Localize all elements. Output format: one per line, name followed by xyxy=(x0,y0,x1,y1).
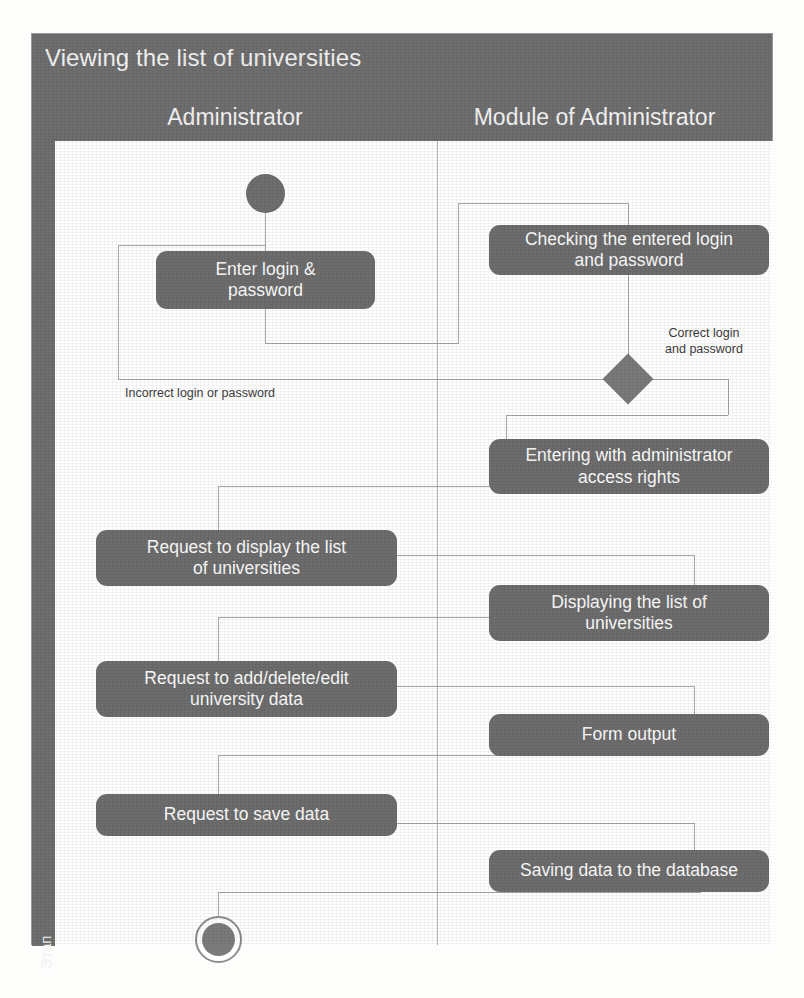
diagram-title-band: Viewing the list of universities Adminis… xyxy=(32,34,772,141)
swimlane-divider xyxy=(437,141,438,945)
connector-enter-login-down xyxy=(265,309,266,343)
swimlane-header-administrator: Administrator xyxy=(55,94,415,141)
connector-displaying-to-request-edit xyxy=(218,617,498,618)
connector-displaying-entry xyxy=(694,555,695,585)
connector-saving-db-entry xyxy=(694,823,695,850)
connector-start-to-enter-login xyxy=(265,213,266,251)
activity-form-output-label: Form output xyxy=(582,724,676,745)
swimlane-header-administrator-label: Administrator xyxy=(167,104,302,131)
connector-into-entering-rights xyxy=(506,415,507,439)
swimlane-header-module-of-administrator-label: Module of Administrator xyxy=(474,104,716,131)
connector-form-output-entry xyxy=(694,686,695,714)
activity-request-save-label: Request to save data xyxy=(164,804,329,825)
connector-incorrect-into-enter-login xyxy=(118,245,265,246)
activity-saving-db-label: Saving data to the database xyxy=(520,860,738,881)
swimlane-canvas: Enter login & password Checking the ente… xyxy=(55,141,773,945)
activity-checking-login-label: Checking the entered login and password xyxy=(525,229,733,272)
connector-enter-login-up-to-checking xyxy=(458,203,459,344)
connector-request-save-to-saving-db xyxy=(397,823,694,824)
activity-enter-login[interactable]: Enter login & password xyxy=(156,251,375,309)
activity-request-edit-label: Request to add/delete/edit university da… xyxy=(144,668,348,711)
connector-enter-login-right xyxy=(265,343,458,344)
connector-saving-db-to-end xyxy=(218,892,701,893)
connector-request-display-to-displaying xyxy=(397,555,694,556)
connector-entering-rights-to-request-display xyxy=(218,486,506,487)
stage-spine: Этап xyxy=(32,141,55,946)
connector-request-display-entry xyxy=(218,486,219,530)
diagram-title: Viewing the list of universities xyxy=(45,44,361,72)
connector-into-checking-login xyxy=(458,203,628,204)
connector-request-edit-to-form-output xyxy=(397,686,694,687)
end-node xyxy=(195,916,242,963)
activity-saving-db[interactable]: Saving data to the database xyxy=(489,850,769,892)
connector-decision-correct-right xyxy=(645,379,728,380)
connector-request-save-entry xyxy=(218,755,219,794)
activity-enter-login-label: Enter login & password xyxy=(215,259,315,302)
connector-form-output-to-request-save xyxy=(218,755,501,756)
activity-entering-rights-label: Entering with administrator access right… xyxy=(525,445,732,488)
edge-label-incorrect-credentials: Incorrect login or password xyxy=(125,386,385,402)
connector-incorrect-up xyxy=(118,245,119,379)
connector-request-edit-entry xyxy=(218,617,219,661)
connector-correct-left xyxy=(506,415,728,416)
activity-displaying-list[interactable]: Displaying the list of universities xyxy=(489,585,769,641)
connector-decision-incorrect-left xyxy=(118,379,611,380)
connector-checking-login-entry xyxy=(628,203,629,225)
edge-label-correct-credentials: Correct login and password xyxy=(645,326,763,357)
activity-request-display[interactable]: Request to display the list of universit… xyxy=(96,530,397,586)
start-node xyxy=(246,174,285,213)
activity-entering-rights[interactable]: Entering with administrator access right… xyxy=(489,439,769,494)
activity-displaying-list-label: Displaying the list of universities xyxy=(551,592,707,635)
swimlane-header-module-of-administrator: Module of Administrator xyxy=(415,94,774,141)
connector-end-entry xyxy=(218,892,219,916)
activity-request-save[interactable]: Request to save data xyxy=(96,794,397,836)
activity-form-output[interactable]: Form output xyxy=(489,714,769,756)
decision-node-credentials[interactable] xyxy=(603,354,654,405)
connector-correct-down xyxy=(728,379,729,415)
stage-label: Этап xyxy=(34,892,57,970)
activity-diagram-frame: Viewing the list of universities Adminis… xyxy=(31,33,773,945)
end-node-core xyxy=(202,923,235,956)
activity-request-edit[interactable]: Request to add/delete/edit university da… xyxy=(96,661,397,717)
connector-checking-to-decision xyxy=(628,275,629,361)
activity-request-display-label: Request to display the list of universit… xyxy=(147,537,346,580)
activity-checking-login[interactable]: Checking the entered login and password xyxy=(489,225,769,275)
